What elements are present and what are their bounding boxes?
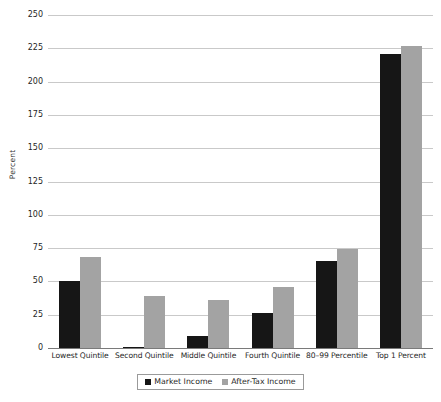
- bar-chart: Percent 0255075100125150175200225250 Low…: [0, 0, 441, 402]
- bar: [316, 261, 337, 348]
- legend-item[interactable]: Market Income: [145, 377, 212, 386]
- x-tick-label: Fourth Quintile: [241, 351, 305, 360]
- bar: [144, 296, 165, 348]
- x-tick-label: 80–99 Percentile: [305, 351, 369, 360]
- bar: [187, 336, 208, 348]
- y-tick-label: 75: [33, 244, 43, 252]
- legend-label: Market Income: [154, 377, 212, 386]
- bar: [252, 313, 273, 348]
- legend-swatch: [145, 379, 151, 385]
- bar: [401, 46, 422, 348]
- bar: [337, 249, 358, 348]
- bar-group: [241, 15, 305, 348]
- bar: [59, 281, 80, 348]
- y-tick-label: 100: [28, 211, 43, 219]
- bar: [208, 300, 229, 348]
- y-tick-label: 50: [33, 277, 43, 285]
- x-axis-labels: Lowest QuintileSecond QuintileMiddle Qui…: [48, 351, 433, 360]
- x-tick-label: Top 1 Percent: [369, 351, 433, 360]
- y-tick-label: 125: [28, 178, 43, 186]
- y-tick-label: 250: [28, 11, 43, 19]
- y-tick-label: 175: [28, 111, 43, 119]
- x-tick-label: Middle Quintile: [176, 351, 240, 360]
- y-tick-label: 25: [33, 311, 43, 319]
- y-axis-title: Percent: [8, 125, 17, 205]
- y-tick-label: 0: [38, 344, 43, 352]
- plot-area: 0255075100125150175200225250: [48, 15, 433, 348]
- x-tick-label: Second Quintile: [112, 351, 176, 360]
- legend-item[interactable]: After-Tax Income: [222, 377, 295, 386]
- legend-swatch: [222, 379, 228, 385]
- bar: [80, 257, 101, 348]
- bar-group: [112, 15, 176, 348]
- bar-groups: [48, 15, 433, 348]
- legend-label: After-Tax Income: [231, 377, 295, 386]
- legend-box: Market IncomeAfter-Tax Income: [137, 374, 303, 390]
- bar: [273, 287, 294, 348]
- y-tick-label: 200: [28, 78, 43, 86]
- gridline: 0: [48, 348, 433, 349]
- bar-group: [305, 15, 369, 348]
- y-tick-label: 225: [28, 44, 43, 52]
- bar: [123, 347, 144, 348]
- bar-group: [176, 15, 240, 348]
- bar-group: [369, 15, 433, 348]
- bar: [380, 54, 401, 348]
- legend: Market IncomeAfter-Tax Income: [0, 374, 441, 390]
- bar-group: [48, 15, 112, 348]
- y-tick-label: 150: [28, 144, 43, 152]
- x-tick-label: Lowest Quintile: [48, 351, 112, 360]
